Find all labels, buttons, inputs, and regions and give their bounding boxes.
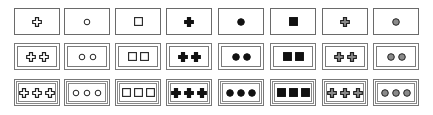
matrix-cell-r2-c8 (373, 43, 419, 70)
gray-circle-icon (392, 89, 400, 97)
gray-cross-icon (340, 17, 350, 27)
matrix-cell-r3-c5 (218, 79, 264, 106)
filled-cross-icon (184, 88, 194, 98)
open-square-icon (134, 17, 143, 26)
matrix-cell-r2-c3 (115, 43, 161, 70)
open-circle-icon (78, 53, 86, 61)
open-circle-icon (83, 18, 91, 26)
filled-cross-icon (178, 52, 188, 62)
gray-circle-icon (381, 89, 389, 97)
matrix-cell-r1-c6 (270, 8, 316, 35)
matrix-cell-r2-c1 (14, 43, 60, 70)
matrix-cell-r1-c1 (14, 8, 60, 35)
filled-circle-icon (237, 18, 245, 26)
filled-circle-icon (237, 89, 245, 97)
open-circle-icon (83, 89, 91, 97)
matrix-cell-r1-c2 (64, 8, 110, 35)
filled-square-icon (301, 88, 310, 97)
matrix-cell-r1-c7 (322, 8, 368, 35)
gray-cross-icon (340, 88, 350, 98)
matrix-cell-r1-c5 (218, 8, 264, 35)
filled-square-icon (289, 17, 298, 26)
matrix-cell-r3-c2 (64, 79, 110, 106)
open-cross-icon (32, 17, 42, 27)
filled-circle-icon (226, 89, 234, 97)
filled-square-icon (277, 88, 286, 97)
matrix-cell-r3-c4 (166, 79, 212, 106)
filled-cross-icon (171, 88, 181, 98)
filled-circle-icon (232, 53, 240, 61)
matrix-cell-r3-c3 (115, 79, 161, 106)
open-square-icon (134, 88, 143, 97)
matrix-cell-r1-c8 (373, 8, 419, 35)
filled-square-icon (283, 52, 292, 61)
open-square-icon (128, 52, 137, 61)
matrix-cell-r3-c7 (322, 79, 368, 106)
matrix-cell-r3-c1 (14, 79, 60, 106)
gray-circle-icon (387, 53, 395, 61)
open-cross-icon (26, 52, 36, 62)
matrix-cell-r3-c8 (373, 79, 419, 106)
open-cross-icon (19, 88, 29, 98)
filled-cross-icon (184, 17, 194, 27)
matrix-cell-r1-c3 (115, 8, 161, 35)
gray-cross-icon (353, 88, 363, 98)
gray-cross-icon (334, 52, 344, 62)
open-cross-icon (39, 52, 49, 62)
matrix-cell-r3-c6 (270, 79, 316, 106)
gray-circle-icon (398, 53, 406, 61)
shape-matrix (0, 0, 433, 115)
open-cross-icon (32, 88, 42, 98)
filled-cross-icon (197, 88, 207, 98)
matrix-cell-r2-c2 (64, 43, 110, 70)
filled-circle-icon (243, 53, 251, 61)
filled-square-icon (289, 88, 298, 97)
open-square-icon (140, 52, 149, 61)
matrix-cell-r1-c4 (166, 8, 212, 35)
filled-circle-icon (248, 89, 256, 97)
gray-cross-icon (327, 88, 337, 98)
open-circle-icon (89, 53, 97, 61)
gray-cross-icon (347, 52, 357, 62)
filled-square-icon (295, 52, 304, 61)
gray-circle-icon (403, 89, 411, 97)
open-circle-icon (94, 89, 102, 97)
matrix-cell-r2-c4 (166, 43, 212, 70)
open-square-icon (146, 88, 155, 97)
open-square-icon (122, 88, 131, 97)
matrix-cell-r2-c7 (322, 43, 368, 70)
matrix-cell-r2-c6 (270, 43, 316, 70)
gray-circle-icon (392, 18, 400, 26)
open-circle-icon (72, 89, 80, 97)
matrix-cell-r2-c5 (218, 43, 264, 70)
filled-cross-icon (191, 52, 201, 62)
open-cross-icon (45, 88, 55, 98)
